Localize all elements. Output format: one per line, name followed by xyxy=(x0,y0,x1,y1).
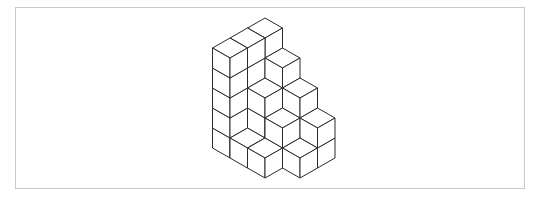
cube-stack-figure xyxy=(0,0,541,199)
